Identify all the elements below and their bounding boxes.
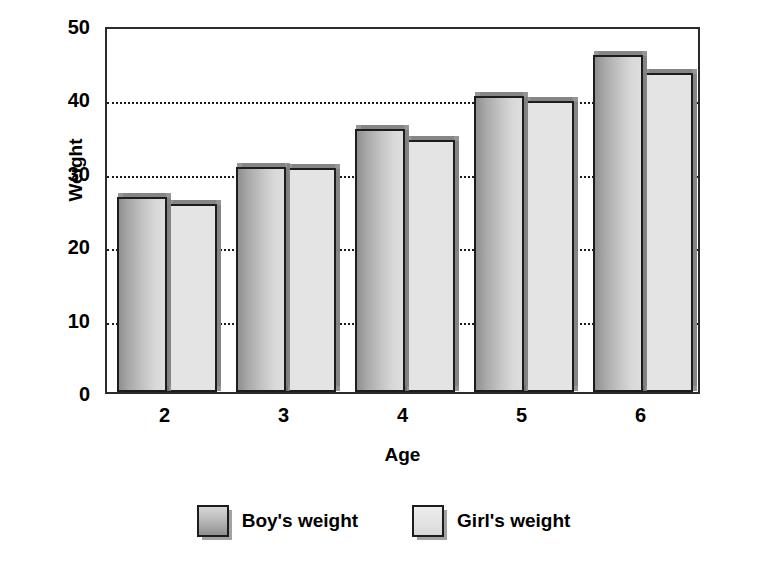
y-axis-tick-labels: 01020304050 (40, 0, 96, 568)
bar-boy-age-6 (593, 55, 643, 392)
legend-swatch-boy (197, 505, 229, 537)
y-tick-label: 30 (40, 162, 90, 185)
y-tick-label: 20 (40, 236, 90, 259)
x-axis-tick-labels: 23456 (105, 404, 700, 434)
chart-legend: Boy's weightGirl's weight (0, 505, 767, 537)
bar-group (593, 29, 693, 392)
legend-label: Boy's weight (242, 510, 358, 532)
y-tick-label: 0 (40, 383, 90, 406)
bar-group (355, 29, 455, 392)
bar-group (117, 29, 217, 392)
bar-group (236, 29, 336, 392)
x-tick-label: 4 (397, 404, 408, 427)
bar-girl-age-5 (524, 101, 574, 392)
bar-boy-age-3 (236, 167, 286, 392)
bar-girl-age-2 (167, 204, 217, 392)
bar-girl-age-6 (643, 73, 693, 392)
legend-label: Girl's weight (457, 510, 570, 532)
bar-groups (107, 29, 698, 392)
legend-swatch-girl (412, 505, 444, 537)
y-tick-label: 50 (40, 16, 90, 39)
legend-item: Boy's weight (197, 505, 358, 537)
x-tick-label: 3 (278, 404, 289, 427)
y-tick-label: 40 (40, 89, 90, 112)
y-tick-label: 10 (40, 309, 90, 332)
legend-item: Girl's weight (412, 505, 570, 537)
plot-area (105, 27, 700, 394)
x-tick-label: 5 (516, 404, 527, 427)
bar-chart: Weight 01020304050 23456 Age Boy's weigh… (0, 0, 767, 568)
bar-boy-age-4 (355, 129, 405, 393)
x-axis-title: Age (105, 444, 700, 466)
x-tick-label: 6 (635, 404, 646, 427)
bar-group (474, 29, 574, 392)
bar-girl-age-4 (405, 140, 455, 392)
bar-girl-age-3 (286, 168, 336, 392)
bar-boy-age-5 (474, 96, 524, 392)
bar-boy-age-2 (117, 197, 167, 392)
x-tick-label: 2 (159, 404, 170, 427)
